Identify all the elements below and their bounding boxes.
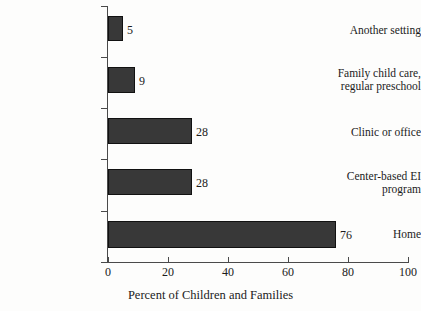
- category-label-family-child-care: Family child care, regular preschool: [318, 67, 421, 93]
- y-axis-tick: [101, 108, 108, 109]
- category-label-clinic-or-office: Clinic or office: [318, 126, 421, 139]
- x-tick-label-80: 80: [342, 265, 354, 279]
- bar-center-based-ei: [108, 169, 192, 195]
- x-tick-label-100: 100: [399, 265, 417, 279]
- value-label-home: 76: [340, 229, 352, 241]
- x-axis-tick: [168, 257, 169, 263]
- y-axis-tick: [101, 6, 108, 7]
- x-axis-title: Percent of Children and Families: [0, 288, 421, 303]
- value-label-another-setting: 5: [127, 24, 133, 36]
- x-axis-tick: [228, 257, 229, 263]
- y-axis-tick: [101, 262, 108, 263]
- bar-another-setting: [108, 16, 123, 41]
- value-label-family-child-care: 9: [139, 75, 145, 87]
- x-tick-label-20: 20: [162, 265, 174, 279]
- y-axis-tick: [101, 211, 108, 212]
- y-axis-tick: [101, 57, 108, 58]
- x-axis-tick: [408, 257, 409, 263]
- bar-clinic-or-office: [108, 118, 192, 144]
- x-tick-label-0: 0: [105, 265, 111, 279]
- value-label-clinic-or-office: 28: [196, 126, 208, 138]
- y-axis-tick: [101, 159, 108, 160]
- category-label-center-based-ei: Center-based EI program: [318, 170, 421, 196]
- category-label-another-setting: Another setting: [318, 24, 421, 37]
- x-axis-tick: [348, 257, 349, 263]
- x-tick-label-60: 60: [282, 265, 294, 279]
- value-label-center-based-ei: 28: [196, 177, 208, 189]
- x-tick-label-40: 40: [222, 265, 234, 279]
- bar-family-child-care: [108, 67, 135, 93]
- bar-chart: 0 20 40 60 80 100 Another setting Family…: [0, 0, 421, 311]
- x-axis-tick: [288, 257, 289, 263]
- x-axis-tick: [108, 257, 109, 263]
- bar-home: [108, 221, 336, 248]
- x-axis-line: [107, 262, 409, 263]
